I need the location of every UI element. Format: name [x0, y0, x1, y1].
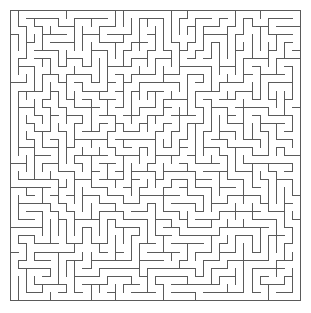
maze-viewport [0, 0, 311, 313]
maze-grid [0, 0, 311, 313]
